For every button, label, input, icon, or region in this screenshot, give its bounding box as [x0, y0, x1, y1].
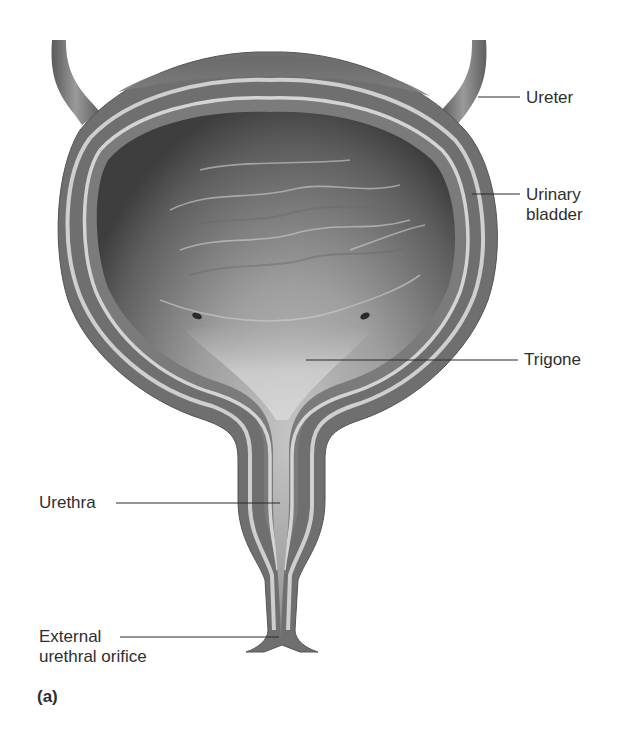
label-urinary-bladder-line1: Urinary: [526, 185, 583, 205]
label-external-line2: urethral orifice: [39, 647, 147, 667]
label-urethra-text: Urethra: [39, 493, 96, 512]
label-external-line1: External: [39, 627, 147, 647]
urinary-bladder-diagram: Ureter Urinary bladder Trigone Urethra E…: [0, 0, 629, 743]
label-ureter-text: Ureter: [526, 88, 573, 107]
left-ureter: [52, 40, 100, 125]
label-trigone-text: Trigone: [524, 350, 581, 369]
label-trigone: Trigone: [524, 350, 581, 370]
label-external-urethral-orifice: External urethral orifice: [39, 627, 147, 667]
label-urinary-bladder-line2: bladder: [526, 205, 583, 225]
panel-label: (a): [37, 687, 58, 707]
label-ureter: Ureter: [526, 88, 573, 108]
label-urinary-bladder: Urinary bladder: [526, 185, 583, 225]
label-urethra: Urethra: [39, 493, 96, 513]
